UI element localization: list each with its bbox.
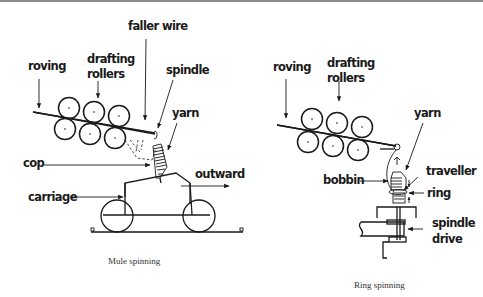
mule-label-spindle: spindle — [166, 63, 210, 77]
ring-label-roving: roving — [273, 60, 311, 74]
mule-label-cop: cop — [23, 156, 45, 170]
ring-label-drive: drive — [432, 232, 463, 246]
spinning-diagram: faller wire roving drafting rollers spin… — [0, 0, 483, 297]
mule-wheel-right — [183, 200, 215, 232]
ring-label-bobbin: bobbin — [323, 173, 365, 187]
ring-bobbin — [391, 172, 406, 203]
mule-label-roving: roving — [28, 59, 66, 73]
ring-label-drafting: drafting — [327, 56, 375, 70]
mule-caption: Mule spinning — [108, 256, 161, 266]
mule-spinning-diagram: faller wire roving drafting rollers spin… — [23, 19, 245, 266]
ring-caption: Ring spinning — [354, 280, 405, 290]
ring-label-spindle: spindle — [432, 216, 476, 230]
mule-label-rollers: rollers — [87, 67, 125, 81]
mule-label-outward: outward — [195, 167, 245, 181]
ring-spinning-diagram: roving drafting rollers yarn bobbin trav… — [273, 56, 477, 290]
mule-label-faller-wire: faller wire — [128, 19, 188, 33]
ring-label-yarn: yarn — [414, 106, 441, 120]
ring-label-traveller: traveller — [426, 164, 477, 178]
ring-yarn-guide — [394, 144, 400, 150]
mule-label-drafting: drafting — [87, 52, 135, 66]
mule-wheel-left — [101, 200, 133, 232]
mule-label-yarn: yarn — [172, 106, 199, 120]
ring-label-rollers: rollers — [327, 71, 365, 85]
ring-drafting-rollers — [298, 109, 373, 161]
ring-label-ring: ring — [427, 186, 451, 200]
mule-dashed-yarn — [125, 140, 156, 160]
mule-label-carriage: carriage — [28, 190, 78, 204]
ring-spindle-drive — [360, 220, 407, 258]
mule-drafting-rollers — [55, 98, 130, 149]
mule-cop — [153, 144, 167, 178]
